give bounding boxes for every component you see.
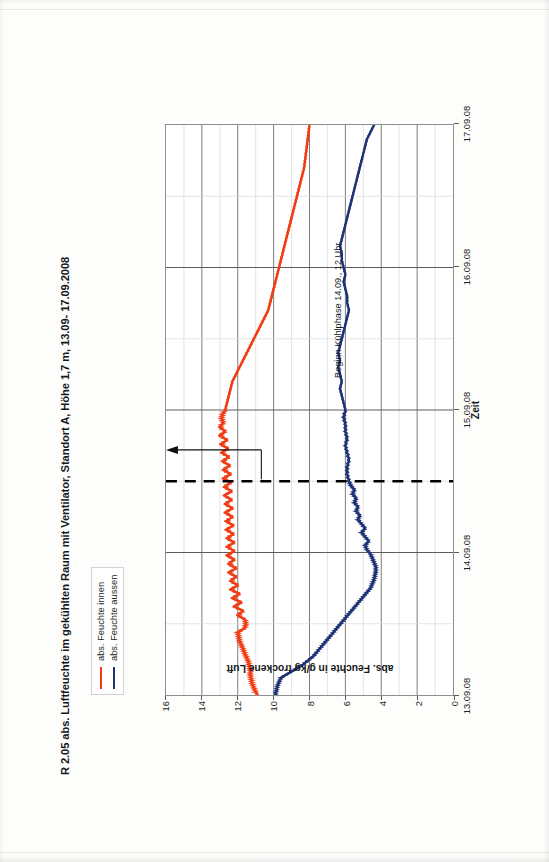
legend-swatch-aussen (112, 667, 115, 689)
plot-area-wrapper: 0246810121416 13.09.0814.09.0815.09.0816… (165, 124, 454, 696)
y-tick-mark (164, 696, 165, 700)
scan-edge-top (0, 9, 549, 10)
x-tick-mark (454, 267, 459, 268)
legend-item-aussen: abs. Feuchte aussen (109, 575, 119, 689)
annotation-kuehlphase: Beginn Kühlphase 14.09., 12 Uhr (333, 243, 343, 378)
x-axis-label: Zeit (470, 401, 481, 419)
x-tick-mark (454, 410, 459, 411)
y-tick-mark (272, 696, 273, 700)
x-tick-label: 16.09.08 (461, 249, 472, 286)
y-tick-mark (236, 696, 237, 700)
x-tick-label: 13.09.08 (461, 678, 472, 715)
y-axis-label: abs. Feuchte in g/kg trockene Luft (225, 663, 392, 674)
y-tick-mark (453, 696, 454, 700)
y-tick-mark (200, 696, 201, 700)
chart-title: R 2.05 abs. Luftfeuchte im gekühlten Rau… (59, 257, 71, 775)
y-tick-mark (381, 696, 382, 700)
x-tick-mark (454, 553, 459, 554)
legend-label-aussen: abs. Feuchte aussen (109, 575, 119, 661)
x-tick-label: 17.09.08 (461, 106, 472, 143)
x-tick-mark (454, 696, 459, 697)
plot-area (165, 124, 454, 696)
y-tick-mark (417, 696, 418, 700)
chart-figure: R 2.05 abs. Luftfeuchte im gekühlten Rau… (55, 81, 495, 781)
scan-edge-bottom (0, 852, 549, 853)
annotation-layer (166, 125, 453, 695)
x-tick-label: 14.09.08 (461, 535, 472, 572)
legend-label-innen: abs. Feuchte innen (96, 582, 106, 661)
scanned-page: R 2.05 abs. Luftfeuchte im gekühlten Rau… (0, 0, 549, 862)
x-tick-mark (454, 124, 459, 125)
chart-legend: abs. Feuchte innen abs. Feuchte aussen (91, 567, 124, 695)
legend-item-innen: abs. Feuchte innen (96, 575, 106, 689)
y-tick-mark (309, 696, 310, 700)
legend-swatch-innen (99, 667, 102, 689)
y-tick-mark (345, 696, 346, 700)
